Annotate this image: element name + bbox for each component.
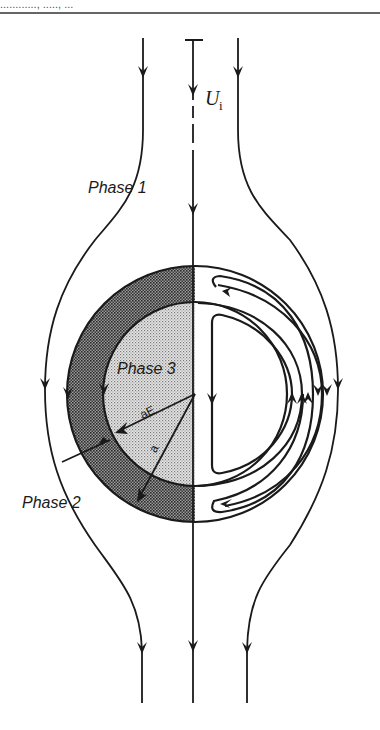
phase1-label: Phase 1 xyxy=(88,179,147,196)
phase2-label: Phase 2 xyxy=(22,494,81,511)
velocity-subscript: i xyxy=(219,98,223,113)
internal-circulation xyxy=(198,276,322,512)
phase3-label: Phase 3 xyxy=(117,360,176,377)
circulation-loop-outer xyxy=(212,276,313,512)
drop-flow-diagram: U i xyxy=(0,0,380,730)
